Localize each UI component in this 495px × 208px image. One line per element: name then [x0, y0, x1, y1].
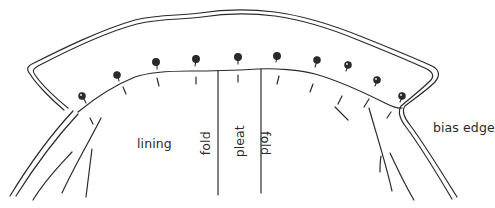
pin-icon: [235, 54, 242, 64]
label-fold-right: fold: [259, 127, 272, 159]
right-drape-fold-2: [390, 153, 414, 200]
label-fold-left: fold: [200, 127, 213, 159]
left-drape-fold-3: [86, 149, 92, 197]
seam-tick-marks: [90, 75, 391, 124]
pin-icon: [345, 62, 351, 71]
label-lining: lining: [137, 138, 172, 151]
pin-icon: [274, 53, 281, 62]
pin-icon: [399, 93, 405, 102]
left-drape-fold-2: [33, 152, 72, 200]
pin-icon: [374, 77, 380, 86]
right-drape-fold-4: [335, 107, 348, 120]
right-drape-fold-1: [369, 108, 392, 191]
collar-outer-edge: [28, 10, 457, 197]
lining-seam-line: [78, 69, 402, 112]
pin-icon: [79, 93, 86, 103]
pin-icon: [314, 57, 320, 67]
label-pleat: pleat: [234, 124, 247, 158]
collar-inner-edge: [33, 14, 452, 199]
pin-icon: [114, 72, 120, 81]
left-bias-edge-outer: [10, 111, 73, 196]
pin-icon: [153, 59, 160, 69]
left-drape-fold-1: [62, 118, 101, 193]
right-drape-fold-3: [380, 156, 381, 172]
pin-icon: [193, 56, 200, 66]
pins: [79, 53, 405, 103]
label-bias-edge: bias edge: [433, 122, 495, 135]
